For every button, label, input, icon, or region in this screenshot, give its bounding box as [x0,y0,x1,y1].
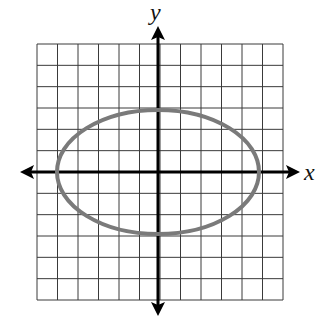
x-axis-label: x [303,159,315,185]
coordinate-plane: x y [0,0,326,316]
y-axis-label: y [148,0,161,25]
